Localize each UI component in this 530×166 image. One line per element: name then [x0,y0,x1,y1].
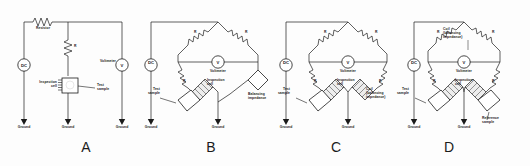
panel-c-voltmeter-label: Voltmeter [335,70,361,74]
panel-c-circuit [280,22,387,125]
panel-b-r-label-2: R [245,31,248,35]
panel-a-resistor-label: Resistor [28,27,58,31]
panel-b-ground-1: Ground [140,126,162,130]
panel-c-r-label-4: R [379,80,382,84]
panel-letter-c: C [321,139,351,155]
panel-c-dc-source: DC [279,60,293,65]
panel-c-r-label-1: R [324,31,327,35]
panel-b-balancing-impedance [248,70,268,90]
panel-b-voltmeter-symbol: V [211,60,225,65]
panel-a-inspection-cell [58,78,78,93]
panel-letter-d: D [434,139,464,155]
panel-c-inspection-cell-label: Inspection cell [337,79,355,87]
panel-b-r-label-3: R [183,80,186,84]
panel-c-ground-2: Ground [337,126,359,130]
panel-d-inspection-cell-label: Inspection cell [455,79,473,87]
panel-b-voltmeter-label: Voltmeter [205,70,231,74]
panel-d-r-label-1: R [437,31,440,35]
panel-d-r-label-2: R [492,31,495,35]
panel-b-ground-2: Ground [207,126,229,130]
panel-c-ground-1: Ground [275,126,297,130]
panel-a-ground-1: Ground [13,126,35,130]
panel-d-test-sample-label: Test sample [385,88,409,96]
panel-a-ground-3: Ground [111,126,133,130]
panel-d-r-label-4: R [492,80,495,84]
panel-a-voltmeter-symbol: V [115,63,129,68]
panel-d-dc-source: DC [407,60,421,65]
panel-b-balancing-impedance-label: Balancing impedance [248,93,266,101]
panel-a-test-sample-label: Test sample [97,84,109,92]
panel-d-r-label-3: R [433,80,436,84]
panel-a-voltmeter-label: Voltmeter [90,60,116,64]
panel-b-inspection-cell-label: Inspection cell [207,79,225,87]
panel-a-dc-source: DC [17,63,31,68]
panel-a-r-label: R [74,45,77,49]
panel-letter-b: B [196,139,226,155]
panel-b-r-label-1: R [194,31,197,35]
panel-a-circuit [18,18,128,125]
panel-c-r-label-2: R [375,31,378,35]
panel-d-voltmeter-symbol: V [457,60,471,65]
panel-d-ground-1: Ground [403,126,425,130]
panel-d-reference-sample-label: Reference sample [482,117,499,125]
panel-b-dc-source: DC [144,60,158,65]
panel-a-ground-2: Ground [57,126,79,130]
panel-letter-a: A [71,139,101,155]
panel-b-test-sample-label: Test sample [136,88,160,96]
panel-c-voltmeter-symbol: V [341,60,355,65]
panel-d-ground-2: Ground [453,126,475,130]
figure-four-panel-circuit-diagram: Resistor R DC V Voltmeter Inspection cel… [0,0,530,166]
panel-a-inspection-cell-label: Inspection cell [34,81,57,89]
panel-c-r-label-3: R [314,80,317,84]
panel-c-balancing-coil-label: Coil (balancing impedance) [366,88,386,99]
panel-d-voltmeter-label: Voltmeter [451,70,477,74]
panel-c-test-sample-label: Test sample [266,88,290,96]
panel-d-coil-balancing-impedance-label: Coil (balancing impedance) [443,28,463,39]
